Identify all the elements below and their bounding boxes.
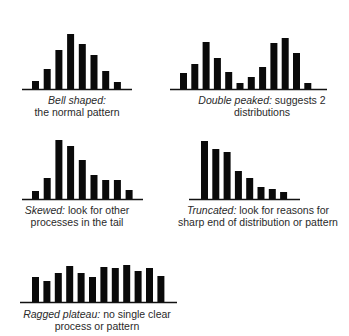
histogram-bar xyxy=(55,50,62,89)
caption-label: Truncated: xyxy=(187,204,236,216)
histogram-bar xyxy=(135,271,142,302)
histogram-bar xyxy=(304,83,311,89)
caption-line-2: process or pattern xyxy=(55,320,140,332)
caption-label: Ragged plateau: xyxy=(23,308,100,320)
histogram-bar xyxy=(32,191,39,199)
histogram-bar xyxy=(224,152,231,199)
histogram-bar xyxy=(32,81,39,89)
histogram-bar xyxy=(180,73,187,89)
histogram-double: Double peaked: suggests 2distributions xyxy=(170,38,327,118)
histogram-bar xyxy=(126,190,133,199)
histogram-bar xyxy=(100,267,107,302)
histogram-bar xyxy=(270,43,277,89)
histogram-bar xyxy=(91,55,98,89)
caption-line-1: Skewed: look for other xyxy=(25,204,130,216)
caption-line-1: Truncated: look for reasons for xyxy=(187,204,330,216)
caption-line-1: Double peaked: suggests 2 xyxy=(198,94,325,106)
histogram-bar xyxy=(235,171,242,199)
histogram-bar xyxy=(146,268,153,302)
caption-label: Double peaked: xyxy=(198,94,272,106)
histogram-bar xyxy=(212,149,219,199)
caption-text: look for reasons for xyxy=(236,204,329,216)
histogram-bar xyxy=(248,77,255,89)
histogram-bar xyxy=(102,71,109,89)
histogram-bar xyxy=(79,44,86,89)
histogram-bar xyxy=(55,140,62,199)
caption-line-2: sharp end of distribution or pattern xyxy=(178,216,338,228)
histogram-bar xyxy=(259,67,266,89)
histogram-bar xyxy=(32,277,39,302)
histogram-bar xyxy=(89,277,96,302)
histogram-bar xyxy=(44,178,51,199)
histogram-bar xyxy=(214,58,221,89)
histogram-bar xyxy=(44,69,51,89)
histogram-bar xyxy=(201,141,208,199)
histogram-bar xyxy=(78,273,85,302)
histogram-bar xyxy=(237,83,244,89)
caption-label: Skewed: xyxy=(25,204,65,216)
histogram-bar xyxy=(114,180,121,199)
histogram-truncated: Truncated: look for reasons forsharp end… xyxy=(178,141,338,228)
caption-line-2: processes in the tail xyxy=(31,216,124,228)
histogram-bar xyxy=(203,42,210,89)
caption-label: Bell shaped: xyxy=(48,94,106,106)
histogram-bar xyxy=(269,189,276,199)
caption-text: no single clear xyxy=(100,308,171,320)
histogram-bell: Bell shaped:the normal pattern xyxy=(22,34,132,118)
histogram-bar xyxy=(66,266,73,302)
histogram-bar xyxy=(280,192,287,199)
histogram-bar xyxy=(293,53,300,89)
histogram-bar xyxy=(246,178,253,199)
histogram-bar xyxy=(67,34,74,89)
caption-line-1: Bell shaped: xyxy=(48,94,106,106)
histogram-bar xyxy=(102,180,109,199)
histogram-ragged: Ragged plateau: no single clearprocess o… xyxy=(20,265,177,332)
histogram-bar xyxy=(191,64,198,89)
histogram-bar xyxy=(114,82,121,89)
caption-line-1: Ragged plateau: no single clear xyxy=(23,308,171,320)
histogram-bar xyxy=(282,38,289,89)
histogram-bar xyxy=(43,281,50,302)
histogram-bar xyxy=(258,187,265,199)
histogram-bar xyxy=(225,72,232,89)
histogram-bar xyxy=(55,273,62,302)
caption-line-2: the normal pattern xyxy=(34,106,119,118)
histogram-bar xyxy=(123,265,130,302)
histogram-bar xyxy=(157,276,164,302)
histogram-bar xyxy=(112,268,119,302)
histogram-skewed: Skewed: look for otherprocesses in the t… xyxy=(22,140,143,228)
caption-text: suggests 2 xyxy=(272,94,326,106)
histogram-bar xyxy=(67,146,74,199)
histogram-bar xyxy=(91,175,98,199)
histogram-shapes-diagram: Bell shaped:the normal patternDouble pea… xyxy=(0,0,349,336)
histogram-bar xyxy=(79,160,86,199)
caption-line-2: distributions xyxy=(234,106,290,118)
caption-text: look for other xyxy=(65,204,130,216)
